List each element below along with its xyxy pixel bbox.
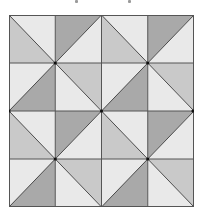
quilt-cell-r1-c0: [9, 63, 55, 111]
quilt-cell-r2-c3: [148, 111, 194, 159]
quilt-pattern-diagram: [9, 15, 194, 207]
quilt-cell-r1-c2: [102, 63, 148, 111]
quilt-cell-r2-c1: [55, 111, 101, 159]
quilt-cell-r0-c2: [102, 15, 148, 63]
vertex-dot: [146, 157, 149, 160]
quilt-cell-r3-c0: [9, 159, 55, 207]
quilt-cell-r3-c1: [55, 159, 101, 207]
quilt-cell-r0-c1: [55, 15, 101, 63]
cropped-caption-fragment: [128, 0, 131, 3]
vertex-dot: [54, 61, 57, 64]
quilt-cell-r0-c3: [148, 15, 194, 63]
quilt-cell-r3-c2: [102, 159, 148, 207]
quilt-cell-r1-c1: [55, 63, 101, 111]
quilt-svg: [9, 15, 194, 207]
quilt-cell-r2-c2: [102, 111, 148, 159]
quilt-cell-r2-c0: [9, 111, 55, 159]
cropped-caption-fragment: [75, 0, 78, 3]
vertex-dot: [146, 61, 149, 64]
quilt-cell-r3-c3: [148, 159, 194, 207]
quilt-cell-r0-c0: [9, 15, 55, 63]
vertex-dot: [54, 157, 57, 160]
vertex-dot: [100, 109, 103, 112]
quilt-cell-r1-c3: [148, 63, 194, 111]
